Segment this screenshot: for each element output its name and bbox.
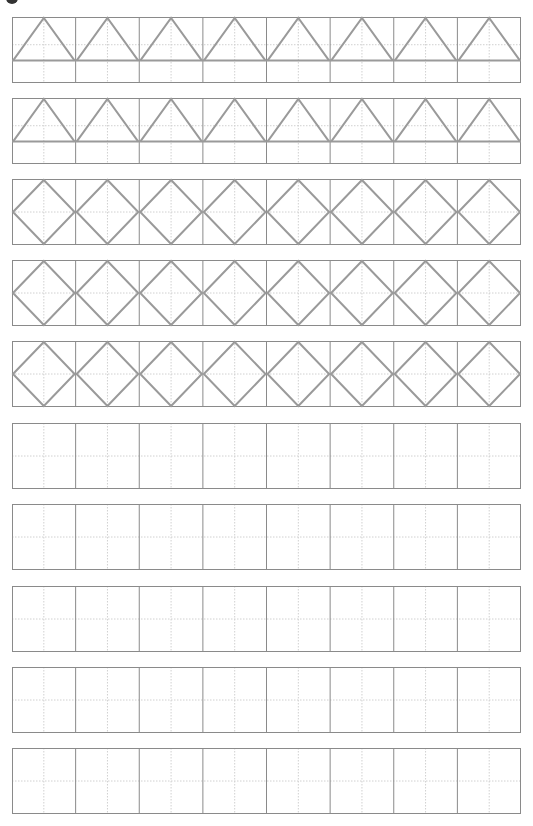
diamond-shape-icon: [12, 260, 521, 326]
practice-row-diamond: [12, 341, 521, 407]
diamond-shape-icon: [12, 341, 521, 407]
practice-row-empty: [12, 423, 521, 489]
practice-row-empty: [12, 748, 521, 814]
triangle-shape-icon: [12, 98, 521, 164]
practice-row-empty: [12, 504, 521, 570]
worksheet-header: [0, 0, 533, 8]
grid-cells: [12, 667, 521, 733]
practice-row-diamond: [12, 260, 521, 326]
grid-cells: [12, 504, 521, 570]
grid-cells: [12, 748, 521, 814]
practice-row-triangle: [12, 98, 521, 164]
diamond-shape-icon: [12, 179, 521, 245]
grid-cells: [12, 586, 521, 652]
bullet-icon: [6, 0, 18, 4]
triangle-shape-icon: [12, 17, 521, 83]
practice-row-empty: [12, 586, 521, 652]
grid-cells: [12, 423, 521, 489]
practice-row-triangle: [12, 17, 521, 83]
practice-row-diamond: [12, 179, 521, 245]
practice-row-empty: [12, 667, 521, 733]
